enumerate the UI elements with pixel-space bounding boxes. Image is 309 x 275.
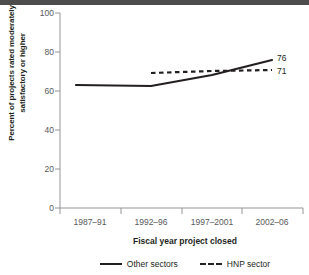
data-label-hnp-sector: 71 [277, 66, 286, 76]
chart-figure: Percent of projects rated moderately sat… [0, 0, 309, 275]
series-line-other-sectors [76, 60, 272, 86]
legend-label-other-sectors: Other sectors [127, 259, 178, 269]
x-axis-title: Fiscal year project closed [60, 236, 309, 246]
x-tick-label-1997-2001: 1997–2001 [191, 217, 234, 227]
legend-item-hnp-sector: HNP sector [200, 259, 270, 269]
data-label-other-sectors: 76 [277, 53, 286, 63]
legend-label-hnp-sector: HNP sector [227, 259, 270, 269]
x-tick-label-1992-96: 1992–96 [134, 217, 167, 227]
legend-swatch-solid-icon [100, 263, 122, 265]
x-tick-label-1987-91: 1987–91 [73, 217, 106, 227]
legend-swatch-dashed-icon [200, 263, 222, 265]
plot-area [0, 0, 309, 275]
legend-item-other-sectors: Other sectors [100, 259, 178, 269]
chart-legend: Other sectors HNP sector [60, 259, 309, 269]
x-tick-label-2002-06: 2002–06 [255, 217, 288, 227]
series-line-hnp-sector [151, 70, 272, 73]
